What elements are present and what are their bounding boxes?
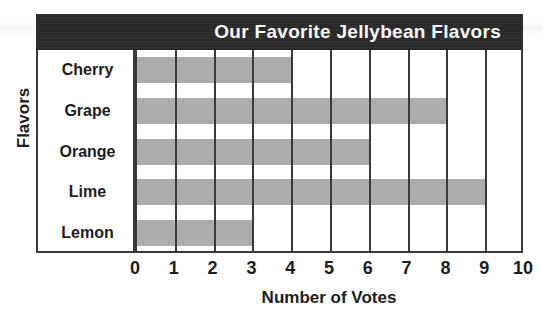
- bar-lemon: [137, 220, 253, 246]
- category-label-lime: Lime: [38, 183, 137, 201]
- category-label-orange: Orange: [38, 143, 137, 161]
- plot-inner: [137, 50, 521, 251]
- gridline-7: [408, 50, 410, 251]
- gridline-3: [252, 50, 254, 251]
- category-label-panel: CherryGrapeOrangeLimeLemon: [36, 50, 135, 253]
- x-tick-label-8: 8: [425, 258, 465, 279]
- x-tick-label-3: 3: [231, 258, 271, 279]
- jellybean-flavors-bar-chart: Our Favorite Jellybean Flavors Flavors C…: [0, 0, 543, 322]
- gridline-6: [369, 50, 371, 251]
- x-tick-label-2: 2: [193, 258, 233, 279]
- x-axis-title: Number of Votes: [135, 288, 523, 308]
- category-label-lemon: Lemon: [38, 224, 137, 242]
- x-tick-label-6: 6: [348, 258, 388, 279]
- category-label-grape: Grape: [38, 102, 137, 120]
- chart-title: Our Favorite Jellybean Flavors: [214, 21, 501, 43]
- gridline-1: [175, 50, 177, 251]
- gridline-9: [485, 50, 487, 251]
- y-axis-title: Flavors: [14, 70, 34, 166]
- x-tick-label-7: 7: [387, 258, 427, 279]
- x-tick-label-4: 4: [270, 258, 310, 279]
- x-tick-label-5: 5: [309, 258, 349, 279]
- x-tick-label-9: 9: [464, 258, 504, 279]
- x-tick-label-0: 0: [115, 258, 155, 279]
- x-tick-label-10: 10: [503, 258, 543, 279]
- gridline-5: [330, 50, 332, 251]
- chart-title-band: Our Favorite Jellybean Flavors: [36, 14, 523, 50]
- gridline-8: [446, 50, 448, 251]
- bar-lime: [137, 179, 486, 205]
- gridline-2: [214, 50, 216, 251]
- gridline-4: [291, 50, 293, 251]
- x-tick-label-1: 1: [154, 258, 194, 279]
- category-label-cherry: Cherry: [38, 61, 137, 79]
- plot-area: [135, 50, 523, 253]
